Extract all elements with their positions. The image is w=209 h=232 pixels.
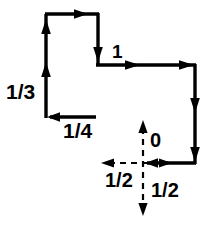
arrowhead-right-top [74, 9, 88, 19]
label-half-vertical: 1/2 [151, 180, 179, 200]
arrowhead-down-upper [93, 47, 103, 62]
arrowhead-left-one-quarter [47, 112, 60, 122]
arrowhead-down-right-upper [190, 98, 200, 113]
arrowhead-right-one-second [179, 60, 194, 70]
dashed-vertical-axis [138, 120, 147, 216]
label-one-quarter: 1/4 [63, 120, 92, 141]
segment-top-horizontal [45, 9, 99, 19]
label-half-horizontal: 1/2 [105, 170, 133, 190]
label-zero: 0 [150, 130, 161, 150]
segment-right-vertical [190, 64, 200, 164]
arrowhead-down-right-lower [190, 147, 200, 162]
arrowhead-right-axis [159, 158, 172, 167]
segment-one [96, 60, 196, 70]
segment-one-third [41, 14, 51, 118]
arrowhead-up-axis [138, 120, 147, 133]
arrowhead-left-axis [101, 158, 114, 167]
arrowhead-up-one-third-upper [41, 19, 51, 34]
label-one: 1 [112, 42, 123, 61]
arrowhead-right-one-first [125, 60, 140, 70]
label-one-third: 1/3 [6, 81, 35, 102]
arrowhead-up-one-third-lower [41, 62, 51, 77]
arrowhead-down-axis [138, 203, 147, 216]
diagram-canvas: 1/3 1/4 1 0 1/2 1/2 [0, 0, 209, 232]
segment-upper-vertical-drop [93, 13, 103, 66]
dashed-horizontal-axis [101, 158, 172, 167]
